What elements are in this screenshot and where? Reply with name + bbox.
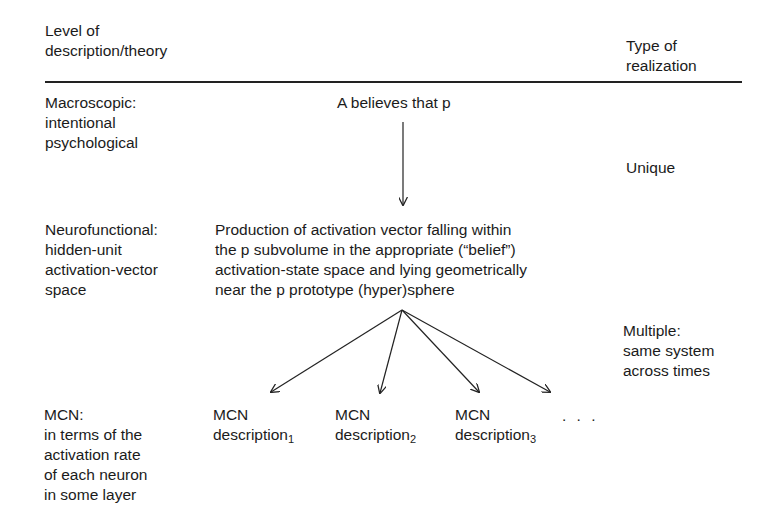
fan-arrow-3	[402, 310, 479, 392]
fan-arrow-2	[380, 310, 402, 393]
fan-arrow-4	[402, 310, 550, 392]
arrows-layer	[0, 0, 777, 521]
fan-arrow-1	[271, 310, 402, 392]
